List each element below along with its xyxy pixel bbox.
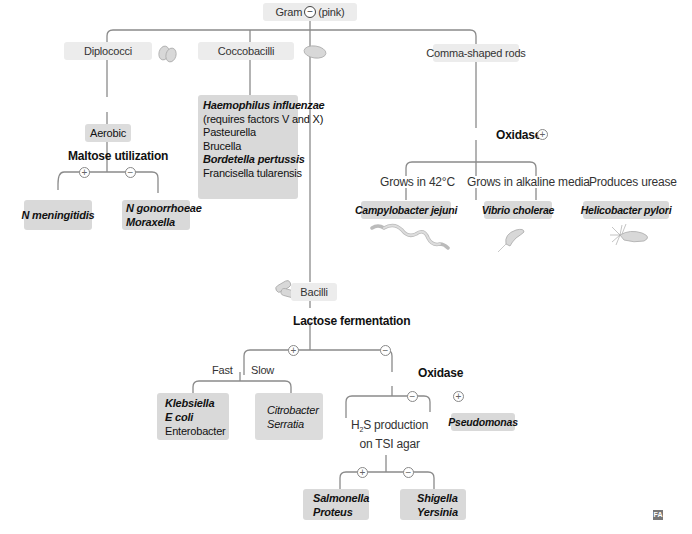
organism-n-meningitidis: N meningitidis <box>22 208 95 222</box>
vibrio-icon <box>494 222 534 254</box>
maltose-utilization-test: Maltose utilization <box>68 149 168 163</box>
organism-enterobacter: Enterobacter <box>165 424 226 438</box>
oxidase-test-comma: Oxidase <box>496 128 541 142</box>
fast-fermenters-box: Klebsiella E coli Enterobacter <box>157 393 229 440</box>
organism-citrobacter: Citrobacter <box>267 403 319 417</box>
diplococcus-icon <box>156 43 178 65</box>
plus-sign-icon: + <box>537 129 548 140</box>
organism-helicobacter-pylori: Helicobacter pylori <box>583 201 669 219</box>
fast-label: Fast <box>212 364 233 376</box>
maltose-positive-box: N meningitidis <box>24 200 92 230</box>
note-factors-v-x: (requires factors V and X) <box>203 113 323 127</box>
coccobacilli-box: Coccobacilli <box>198 42 294 60</box>
organism-francisella-tularensis: Francisella tularensis <box>203 167 302 181</box>
organism-salmonella: Salmonella <box>313 491 369 505</box>
plus-sign-icon: + <box>288 345 299 356</box>
organism-e-coli: E coli <box>165 410 193 424</box>
organism-shigella: Shigella <box>417 491 458 505</box>
minus-sign-icon: − <box>380 345 391 356</box>
campylobacter-icon <box>370 222 450 250</box>
publisher-logo-icon: FA <box>653 510 663 520</box>
comma-shaped-rods-box: Comma-shaped rods <box>433 44 519 62</box>
minus-sign-icon: − <box>407 391 418 402</box>
h2s-text: S production <box>363 418 428 432</box>
h2s-production-label: H2S production on TSI agar <box>351 418 428 451</box>
minus-sign-icon: − <box>304 6 316 18</box>
h2s-negative-box: Shigella Yersinia <box>400 489 466 520</box>
slow-fermenters-box: Citrobacter Serratia <box>255 393 323 440</box>
diplococci-box: Diplococci <box>64 42 152 60</box>
coccobacilli-organisms-box: Haemophilus influenzae (requires factors… <box>198 95 298 199</box>
minus-sign-icon: − <box>403 467 414 478</box>
coccobacillus-icon <box>302 44 328 60</box>
h2s-positive-box: Salmonella Proteus <box>303 489 369 520</box>
condition-alkaline: Grows in alkaline media <box>467 175 590 189</box>
minus-sign-icon: − <box>125 167 136 178</box>
aerobic-box: Aerobic <box>85 124 131 142</box>
organism-campylobacter-jejuni: Campylobacter jejuni <box>361 201 451 219</box>
oxidase-test-bacilli: Oxidase <box>418 366 463 380</box>
organism-pseudomonas: Pseudomonas <box>451 413 515 431</box>
organism-pasteurella: Pasteurella <box>203 126 256 140</box>
oxidase-label: Oxidase <box>496 128 541 142</box>
organism-serratia: Serratia <box>267 417 304 431</box>
helicobacter-icon <box>600 222 660 248</box>
lactose-fermentation-test: Lactose fermentation <box>293 314 410 328</box>
gram-label: Gram <box>275 5 302 19</box>
plus-sign-icon: + <box>357 467 368 478</box>
maltose-negative-box: N gonorrhoeae Moraxella <box>122 200 190 230</box>
bacilli-box: Bacilli <box>291 283 337 301</box>
organism-yersinia: Yersinia <box>417 505 458 519</box>
organism-n-gonorrhoeae: N gonorrhoeae <box>126 201 202 215</box>
organism-klebsiella: Klebsiella <box>165 396 214 410</box>
organism-proteus: Proteus <box>313 505 353 519</box>
organism-moraxella: Moraxella <box>126 215 175 229</box>
tsi-agar-text: on TSI agar <box>359 437 419 451</box>
gram-negative-root: Gram − (pink) <box>263 3 357 21</box>
organism-bordetella-pertussis: Bordetella pertussis <box>203 153 305 167</box>
plus-sign-icon: + <box>79 167 90 178</box>
slow-label: Slow <box>251 364 274 376</box>
condition-42c: Grows in 42°C <box>380 175 455 189</box>
pink-label: (pink) <box>318 5 344 19</box>
organism-vibrio-cholerae: Vibrio cholerae <box>484 201 552 219</box>
plus-sign-icon: + <box>453 391 464 402</box>
organism-brucella: Brucella <box>203 140 241 154</box>
condition-urease: Produces urease <box>589 175 677 189</box>
connector-lines <box>0 0 692 534</box>
organism-haemophilus-influenzae: Haemophilus influenzae <box>203 99 325 113</box>
